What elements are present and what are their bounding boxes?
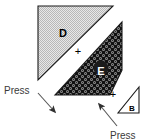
press-label-left: Press bbox=[4, 85, 30, 96]
shape-e-label: E bbox=[97, 65, 104, 77]
press-arrow-right bbox=[99, 104, 117, 126]
shape-b-label: B bbox=[129, 104, 135, 113]
shape-d-label: D bbox=[59, 27, 67, 39]
assembly-diagram: D E B + + Press Press bbox=[0, 0, 148, 140]
press-label-right: Press bbox=[110, 130, 136, 140]
figure-canvas: D E B + + Press Press bbox=[0, 0, 148, 140]
plus-sign-e-b: + bbox=[110, 88, 116, 100]
plus-sign-d-e: + bbox=[75, 45, 81, 57]
press-arrow-left bbox=[38, 93, 55, 112]
